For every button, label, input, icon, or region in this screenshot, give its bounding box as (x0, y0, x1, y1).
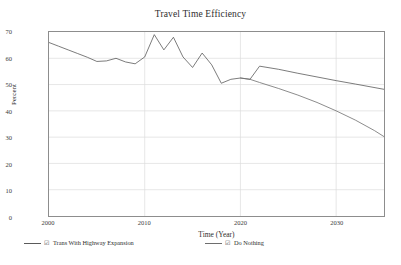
y-tick-10: 10 (0, 187, 12, 194)
series-lines (49, 32, 384, 216)
x-tick-2010: 2010 (124, 219, 164, 226)
y-tick-70: 70 (0, 28, 12, 35)
legend-entry-1[interactable]: ☑Do Nothing (205, 240, 264, 246)
x-tick-2020: 2020 (221, 219, 261, 226)
x-tick-2000: 2000 (28, 219, 68, 226)
chart-figure: Travel Time Efficiency 010203040506070 2… (0, 0, 401, 265)
y-axis-label: Percent (10, 84, 18, 105)
legend-line-swatch (24, 243, 41, 244)
y-tick-20: 20 (0, 160, 12, 167)
series-line-1 (240, 78, 384, 137)
y-tick-30: 30 (0, 134, 12, 141)
chart-title: Travel Time Efficiency (0, 9, 401, 19)
legend-label: Trans With Highway Expansion (53, 240, 134, 246)
legend-line-swatch (205, 243, 222, 244)
legend-checkbox-icon[interactable]: ☑ (225, 240, 230, 246)
legend-checkbox-icon[interactable]: ☑ (44, 240, 49, 246)
plot-area (48, 31, 385, 217)
legend-label: Do Nothing (234, 240, 264, 246)
series-line-0 (49, 35, 384, 90)
y-tick-0: 0 (0, 214, 12, 221)
chart-legend: ☑Trans With Highway Expansion☑Do Nothing (0, 240, 401, 258)
x-tick-2030: 2030 (317, 219, 357, 226)
x-axis-label: Time (Year) (48, 230, 385, 239)
y-tick-40: 40 (0, 107, 12, 114)
y-tick-60: 60 (0, 54, 12, 61)
legend-entry-0[interactable]: ☑Trans With Highway Expansion (24, 240, 134, 246)
